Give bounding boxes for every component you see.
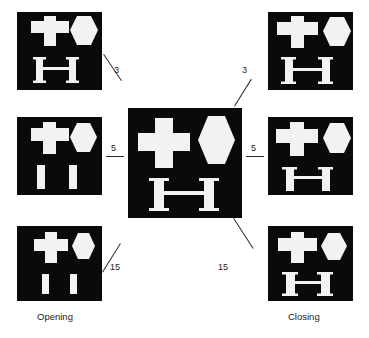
closing-5-image (268, 117, 353, 195)
edge-label-opening-15: 15 (110, 263, 120, 272)
morphology-figure: 3 5 15 3 5 15 Opening Closing (0, 0, 369, 338)
original-image-panel (128, 108, 242, 218)
closing-radius-3-panel (268, 12, 353, 90)
caption-opening: Opening (37, 312, 73, 322)
opening-radius-15-panel (17, 226, 102, 301)
connector-closing-5 (246, 156, 264, 157)
opening-radius-5-panel (17, 117, 102, 195)
opening-3-image (17, 12, 102, 90)
closing-15-image (268, 226, 353, 301)
edge-label-closing-15: 15 (218, 263, 228, 272)
original-image (128, 108, 242, 218)
connector-closing-15 (233, 218, 253, 249)
edge-label-opening-3: 3 (114, 66, 119, 75)
closing-radius-15-panel (268, 226, 353, 301)
caption-closing: Closing (288, 312, 320, 322)
opening-5-image (17, 117, 102, 195)
closing-radius-5-panel (268, 117, 353, 195)
connector-opening-3 (103, 54, 122, 81)
edge-label-closing-5: 5 (251, 144, 256, 153)
connector-opening-5 (106, 156, 124, 157)
edge-label-opening-5: 5 (111, 144, 116, 153)
opening-radius-3-panel (17, 12, 102, 90)
connector-closing-3 (234, 79, 252, 107)
closing-3-image (268, 12, 353, 90)
opening-15-image (17, 226, 102, 301)
edge-label-closing-3: 3 (242, 66, 247, 75)
